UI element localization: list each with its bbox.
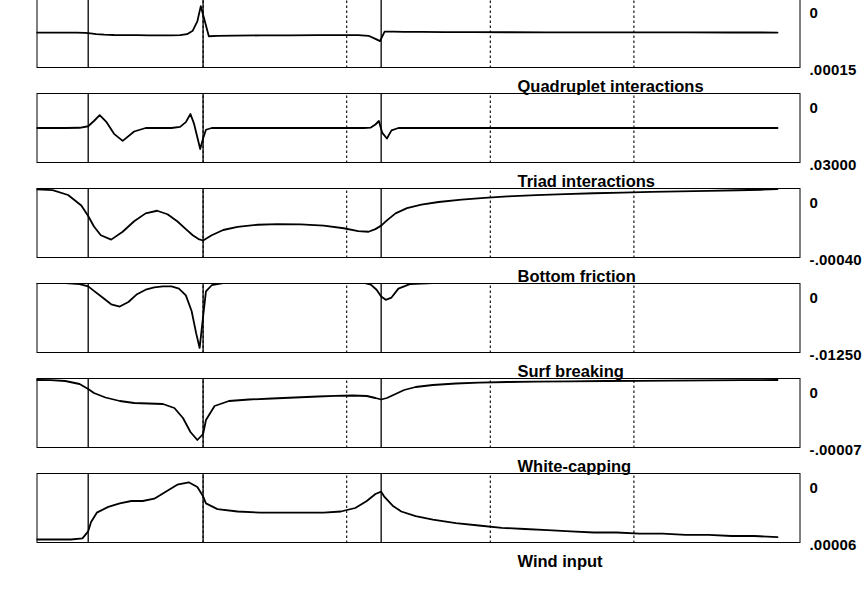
panel-wind-input (36, 473, 800, 543)
panel-quadruplet-interactions (36, 0, 800, 68)
panel-plot-area (36, 0, 800, 68)
panel-bottom-friction (36, 188, 800, 258)
panel-title: Surf breaking (517, 362, 623, 381)
panel-white-capping (36, 378, 800, 448)
axis-label-max: -.00007 (809, 441, 861, 458)
panel-triad-interactions (36, 93, 800, 163)
axis-label-max: .00015 (809, 61, 856, 78)
panel-title: Triad interactions (517, 172, 655, 191)
axis-label-max: .03000 (809, 156, 856, 173)
axis-label-max: .00006 (809, 536, 856, 553)
panel-plot-area (36, 378, 800, 448)
axis-label-zero: 0 (809, 479, 818, 496)
panel-title: Bottom friction (517, 267, 635, 286)
panel-plot-area (36, 93, 800, 163)
axis-label-max: -.00040 (809, 251, 861, 268)
panel-title: White-capping (517, 457, 631, 476)
panel-plot-area (36, 188, 800, 258)
axis-label-max: -.01250 (809, 346, 861, 363)
panel-title: Wind input (517, 552, 602, 571)
axis-label-zero: 0 (809, 289, 818, 306)
panel-plot-area (36, 283, 800, 353)
axis-label-zero: 0 (809, 384, 818, 401)
axis-label-zero: 0 (809, 194, 818, 211)
panel-plot-area (36, 473, 800, 543)
axis-label-zero: 0 (809, 4, 818, 21)
axis-label-zero: 0 (809, 99, 818, 116)
panel-title: Quadruplet interactions (517, 77, 703, 96)
panel-surf-breaking (36, 283, 800, 353)
